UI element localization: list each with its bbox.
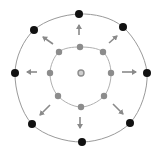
inner-dot — [47, 70, 53, 76]
outer-dot — [28, 120, 36, 128]
outer-dot — [143, 69, 151, 77]
inner-dot — [101, 93, 107, 99]
outer-ring-dots — [11, 10, 151, 146]
center-dot — [78, 70, 84, 76]
diagram-canvas — [0, 0, 157, 155]
outer-dot — [78, 138, 86, 146]
inner-dot — [100, 49, 106, 55]
outer-dot — [119, 23, 127, 31]
radial-diagram — [0, 0, 157, 155]
inner-dot — [78, 104, 84, 110]
arrow-down-right-icon — [113, 104, 123, 114]
outer-dot — [30, 26, 38, 34]
center-point — [78, 70, 84, 76]
inner-dot — [55, 93, 61, 99]
inner-dot — [108, 70, 114, 76]
arrow-up-right-icon — [109, 36, 117, 43]
arrow-down-left-icon — [40, 105, 50, 115]
inner-dot — [56, 49, 62, 55]
arrow-up-left-icon — [43, 37, 53, 44]
outer-dot — [75, 10, 83, 18]
outer-dot — [126, 119, 134, 127]
outer-dot — [11, 69, 19, 77]
inner-ring-dots — [47, 44, 114, 110]
inner-dot — [77, 44, 83, 50]
